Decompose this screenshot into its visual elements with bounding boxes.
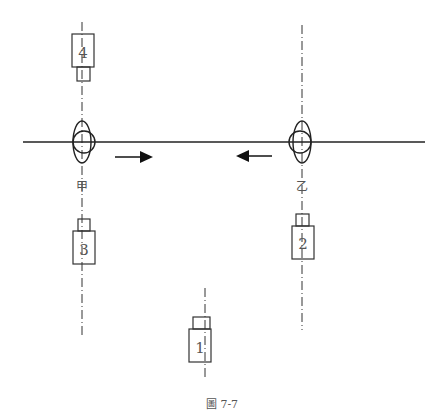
- node-jia-label: 甲: [76, 180, 88, 194]
- arrow-right: [115, 151, 153, 163]
- unit-2-label: 2: [298, 235, 308, 253]
- unit-1-label: 1: [195, 339, 205, 357]
- unit-4-label: 4: [78, 44, 88, 62]
- diagram-canvas: 4 3 2 1 甲 乙: [0, 0, 444, 415]
- node-yi-label: 乙: [296, 180, 308, 194]
- unit-3-label: 3: [79, 241, 89, 259]
- figure-caption: 圖 7-7: [0, 395, 444, 411]
- arrow-left: [236, 150, 272, 162]
